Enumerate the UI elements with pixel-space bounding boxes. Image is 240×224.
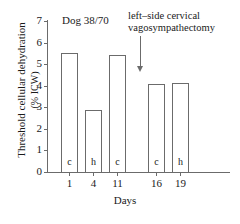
y-tick-label-4: 4	[30, 80, 42, 91]
x-tick-mark-11	[117, 173, 118, 176]
y-tick-0: 0	[26, 166, 42, 177]
y-tick-label-1: 1	[30, 144, 42, 155]
y-tick-mark-6	[44, 43, 47, 44]
annotation-line2: vagosympathectomy	[128, 22, 215, 34]
y-tick-mark-3	[44, 107, 47, 108]
x-tick-mark-4	[93, 173, 94, 176]
y-tick-label-2: 2	[30, 123, 42, 134]
y-tick-4: 4	[26, 80, 42, 91]
x-tick-mark-19	[180, 173, 181, 176]
bar-day-1	[61, 53, 78, 173]
y-tick-2: 2	[26, 123, 42, 134]
down-arrow-head-icon	[137, 66, 143, 72]
x-tick-label-19: 19	[170, 177, 192, 189]
down-arrow-icon	[140, 36, 141, 68]
bar-letter-day-4: h	[86, 157, 102, 167]
x-tick-mark-16	[156, 173, 157, 176]
x-tick-label-1: 1	[59, 177, 81, 189]
bar-letter-day-1: c	[62, 157, 78, 167]
y-tick-mark-5	[44, 64, 47, 65]
bar-letter-day-19: h	[173, 157, 189, 167]
y-tick-label-7: 7	[30, 15, 42, 26]
y-tick-5: 5	[26, 58, 42, 69]
y-tick-mark-4	[44, 86, 47, 87]
y-tick-mark-7	[44, 21, 47, 22]
y-axis-line	[47, 20, 48, 173]
y-tick-7: 7	[26, 15, 42, 26]
x-tick-label-16: 16	[146, 177, 168, 189]
x-tick-label-11: 11	[107, 177, 129, 189]
y-tick-mark-2	[44, 129, 47, 130]
y-tick-label-5: 5	[30, 58, 42, 69]
y-tick-label-3: 3	[30, 101, 42, 112]
y-tick-mark-1	[44, 150, 47, 151]
bar-letter-day-11: c	[110, 157, 126, 167]
y-tick-3: 3	[26, 101, 42, 112]
bar-letter-day-16: c	[149, 157, 165, 167]
y-tick-label-6: 6	[30, 37, 42, 48]
x-axis-title: Days	[95, 194, 155, 207]
annotation-vagosympathectomy: left–side cervical vagosympathectomy	[128, 10, 215, 34]
y-tick-mark-0	[44, 172, 47, 173]
chart-title-dog-id: Dog 38/70	[62, 14, 109, 27]
bar-chart: Threshold cellular dehydration (% ICW) 0…	[0, 0, 240, 224]
y-tick-label-0: 0	[30, 166, 42, 177]
x-tick-mark-1	[69, 173, 70, 176]
x-tick-label-4: 4	[83, 177, 105, 189]
annotation-line1: left–side cervical	[128, 10, 200, 21]
y-tick-1: 1	[26, 144, 42, 155]
y-tick-6: 6	[26, 37, 42, 48]
